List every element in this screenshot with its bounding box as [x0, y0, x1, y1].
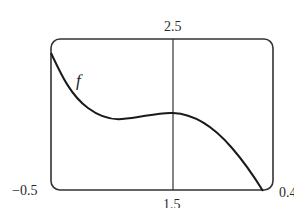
plot-frame — [51, 39, 273, 190]
y-min-tick-label: 1.5 — [163, 198, 181, 208]
function-curve-f — [51, 53, 263, 191]
y-max-tick-label: 2.5 — [164, 20, 182, 34]
function-label-f: f — [76, 72, 81, 89]
x-max-tick-label: 0.4 — [279, 186, 294, 200]
plot-area — [0, 0, 294, 208]
x-min-tick-label: −0.5 — [12, 184, 37, 198]
